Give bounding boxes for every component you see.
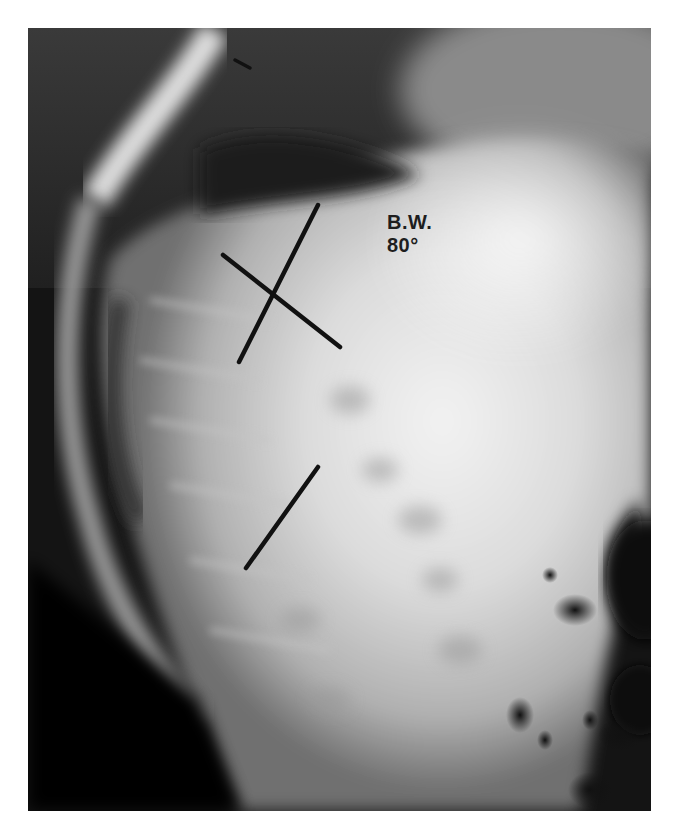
xray-image: B.W. 80° (28, 28, 651, 811)
annotation-label: B.W. (387, 211, 432, 233)
figure-caption (28, 818, 651, 833)
xray-rendering (28, 28, 651, 811)
annotation-angle: 80° (387, 234, 419, 256)
